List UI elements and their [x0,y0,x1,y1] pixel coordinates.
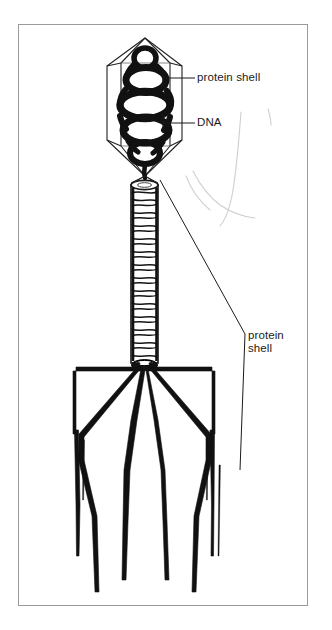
label-protein-shell-tail-line2: shell [248,342,272,354]
label-protein-shell-tail-line1: protein [248,329,284,341]
label-protein-shell-tail: proteinshell [248,329,284,354]
label-dna: DNA [197,116,222,129]
figure-page: protein shell DNA proteinshell [0,0,332,630]
leader-lines [160,70,245,470]
tail-fiber-legs [73,366,220,592]
bacteriophage-diagram [0,0,332,630]
tail-sheath [131,180,158,363]
label-protein-shell-head: protein shell [197,71,260,84]
